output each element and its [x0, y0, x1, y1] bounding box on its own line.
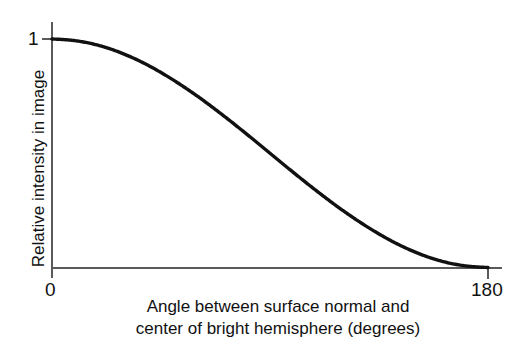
chart-plot-area: [0, 0, 526, 345]
intensity-vs-angle-chart: 1 0 180 Relative intensity in image Angl…: [0, 0, 526, 345]
intensity-curve: [52, 39, 488, 268]
